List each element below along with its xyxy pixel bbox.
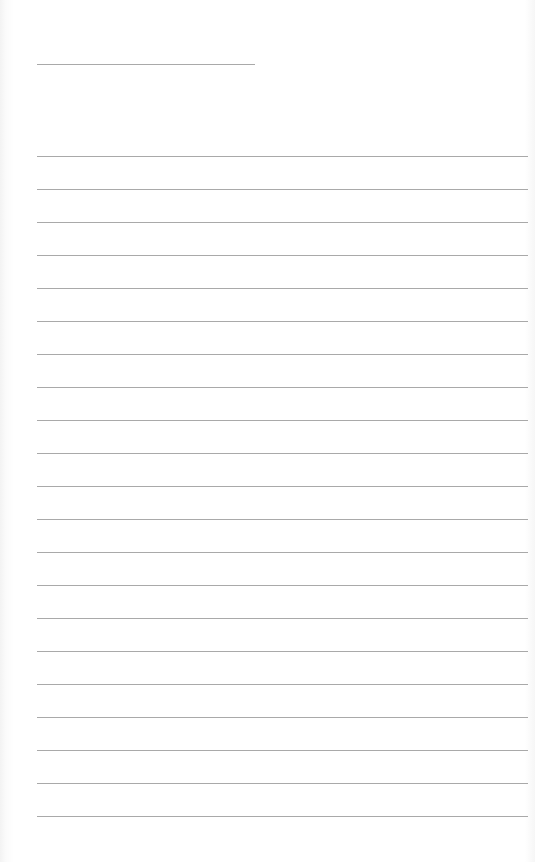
ruled-line bbox=[37, 222, 528, 223]
ruled-line bbox=[37, 651, 528, 652]
header-line bbox=[37, 64, 255, 65]
ruled-line bbox=[37, 288, 528, 289]
lined-paper-page bbox=[0, 0, 535, 862]
ruled-line bbox=[37, 189, 528, 190]
ruled-line bbox=[37, 783, 528, 784]
ruled-line bbox=[37, 552, 528, 553]
ruled-line bbox=[37, 816, 528, 817]
ruled-line bbox=[37, 156, 528, 157]
ruled-line bbox=[37, 684, 528, 685]
ruled-line bbox=[37, 453, 528, 454]
ruled-line bbox=[37, 618, 528, 619]
ruled-line bbox=[37, 717, 528, 718]
ruled-line bbox=[37, 387, 528, 388]
ruled-line bbox=[37, 321, 528, 322]
ruled-line bbox=[37, 750, 528, 751]
ruled-line bbox=[37, 585, 528, 586]
ruled-line bbox=[37, 519, 528, 520]
ruled-line bbox=[37, 420, 528, 421]
ruled-line bbox=[37, 486, 528, 487]
ruled-line bbox=[37, 354, 528, 355]
ruled-line bbox=[37, 255, 528, 256]
